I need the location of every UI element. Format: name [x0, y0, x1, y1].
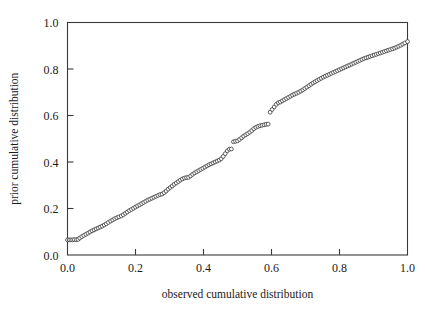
cumulative-distribution-scatter-plot: 0.00.20.40.60.81.0 0.00.20.40.60.81.0 ob… [0, 0, 425, 312]
data-point [229, 147, 233, 151]
x-tick-label: 0.6 [264, 261, 279, 275]
x-tick-label: 0.8 [332, 261, 347, 275]
y-tick-label: 0.0 [44, 249, 59, 263]
x-tick-label: 0.2 [128, 261, 143, 275]
y-tick-label: 1.0 [44, 16, 59, 30]
y-tick-label: 0.8 [44, 63, 59, 77]
data-point [266, 122, 270, 126]
y-axis-title: prior cumulative distribution [8, 72, 21, 204]
y-tick-label: 0.4 [44, 156, 59, 170]
chart-figure: 0.00.20.40.60.81.0 0.00.20.40.60.81.0 ob… [0, 0, 425, 312]
x-tick-label: 0.4 [196, 261, 211, 275]
x-tick-label: 1.0 [400, 261, 415, 275]
y-tick-label: 0.2 [44, 202, 59, 216]
x-tick-label: 0.0 [60, 261, 75, 275]
y-tick-label: 0.6 [44, 109, 59, 123]
x-axis-title: observed cumulative distribution [162, 288, 314, 300]
data-point [406, 40, 410, 44]
